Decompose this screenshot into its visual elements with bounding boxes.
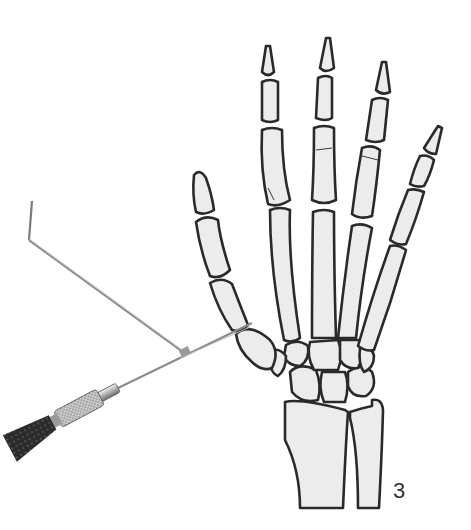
ulna-bone: [350, 400, 383, 508]
hand-drill: [3, 377, 127, 462]
figure-label: 3: [393, 478, 405, 504]
index-finger-bones: [262, 46, 300, 342]
kirschner-wire: [118, 323, 252, 388]
carpal-bones: [270, 340, 374, 402]
wire-guide-rod: [29, 201, 191, 358]
radius-bone: [285, 401, 348, 508]
hand-illustration: [0, 0, 471, 530]
middle-finger-bones: [312, 38, 336, 338]
thumb-bones: [193, 172, 275, 369]
forearm-bones: [285, 400, 383, 508]
